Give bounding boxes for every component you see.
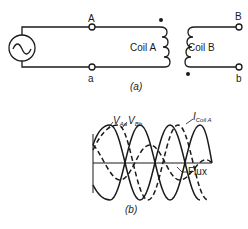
terminal-A xyxy=(89,24,95,30)
terminal-a xyxy=(89,64,95,70)
sine-glyph-icon xyxy=(13,44,31,54)
transformer-diagram: A a B b Coil A Coil B (a) VAa VBb ICoil … xyxy=(0,0,248,229)
coil-a-winding-icon xyxy=(160,27,170,67)
polarity-dot-coil-a xyxy=(159,18,163,22)
caption-b: (b) xyxy=(125,204,137,215)
terminal-B-label: B xyxy=(235,11,242,22)
coil-b-label: Coil B xyxy=(188,42,215,53)
v-bb-label: VBb xyxy=(128,115,143,127)
caption-a: (a) xyxy=(130,81,142,92)
terminal-b-label: b xyxy=(236,73,242,84)
terminal-b xyxy=(236,64,242,70)
flux-label: Flux xyxy=(188,166,207,177)
terminal-A-label: A xyxy=(88,13,95,24)
polarity-dot-coil-b xyxy=(186,72,190,76)
coil-a-label: Coil A xyxy=(130,42,156,53)
terminal-B xyxy=(236,24,242,30)
i-coil-a-label: ICoil A xyxy=(193,111,212,123)
terminal-a-label: a xyxy=(88,73,94,84)
v-aa-label: VAa xyxy=(113,115,128,127)
waveform-plot xyxy=(93,119,212,200)
